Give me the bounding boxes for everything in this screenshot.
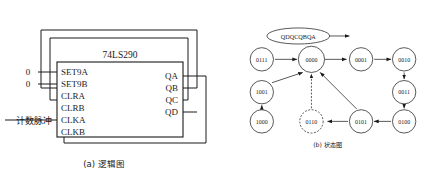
state-node-label: 0011 (398, 89, 410, 95)
state-diagram-svg: QDQCQBQA (218, 0, 437, 180)
pin-label-clka: CLKA (61, 115, 86, 125)
pin-label-clkb: CLKB (61, 127, 85, 137)
state-node-label: 0100 (398, 119, 410, 125)
state-edges (262, 59, 404, 121)
state-node-0011[interactable]: 0011 (392, 81, 415, 104)
state-node-0000[interactable]: 0000 (298, 46, 324, 72)
output-order-label: QDQCQBQA (281, 33, 317, 40)
pin-label-qc: QC (165, 95, 178, 105)
logic-diagram-svg: 74LS290 SET9A SET9B CLRA CLRB CLKA CLKB … (0, 0, 218, 180)
chip-part-number: 74LS290 (103, 50, 138, 60)
state-node-label: 1001 (256, 89, 268, 95)
pin-label-clra: CLRA (61, 91, 86, 101)
edge-0101-0000 (320, 72, 357, 109)
pin-label-qb: QB (165, 83, 178, 93)
state-node-label: 0000 (305, 57, 317, 63)
output-order-legend: QDQCQBQA (267, 28, 349, 44)
state-node-1000[interactable]: 1000 (250, 110, 273, 133)
level-zero-set9b: 0 (26, 79, 31, 89)
pin-label-qd: QD (165, 107, 178, 117)
pin-label-clrb: CLRB (61, 103, 85, 113)
state-node-0111[interactable]: 0111 (250, 48, 273, 71)
state-node-0010[interactable]: 0010 (392, 48, 415, 71)
edge-1001-0000 (272, 72, 303, 82)
pin-label-set9b: SET9B (61, 79, 88, 89)
state-node-label: 0110 (306, 119, 318, 125)
logic-diagram-panel: 74LS290 SET9A SET9B CLRA CLRB CLKA CLKB … (0, 0, 218, 180)
clock-input-label: 计数脉冲 (16, 115, 52, 126)
state-node-0101[interactable]: 0101 (349, 110, 372, 133)
state-node-0100[interactable]: 0100 (392, 110, 415, 133)
logic-diagram-caption: (a) 逻辑图 (83, 159, 125, 169)
state-node-label: 0001 (355, 57, 367, 63)
state-node-label: 0010 (398, 57, 410, 63)
state-node-label: 1000 (256, 119, 268, 125)
state-node-0001[interactable]: 0001 (349, 48, 372, 71)
state-node-1001[interactable]: 1001 (250, 81, 273, 104)
state-node-0110[interactable]: 0110 (300, 110, 323, 133)
pin-label-set9a: SET9A (61, 67, 89, 77)
level-zero-set9a: 0 (26, 67, 31, 77)
state-diagram-caption: (b) 状态图 (313, 141, 342, 149)
figure-root: 74LS290 SET9A SET9B CLRA CLRB CLKA CLKB … (0, 0, 437, 180)
state-diagram-panel: QDQCQBQA (218, 0, 437, 180)
state-node-label: 0101 (355, 119, 367, 125)
pin-label-qa: QA (165, 71, 178, 81)
state-node-label: 0111 (256, 57, 268, 63)
